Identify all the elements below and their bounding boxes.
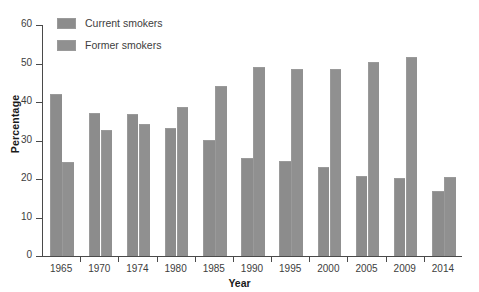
x-tick-label: 1990	[233, 263, 271, 274]
x-tick-label: 1985	[195, 263, 233, 274]
y-axis-title: Percentage	[9, 79, 21, 169]
bar	[330, 69, 342, 256]
bar	[253, 67, 265, 256]
bar	[356, 176, 368, 256]
bar-chart: Current smokers Former smokers 010203040…	[0, 0, 479, 292]
bar	[318, 167, 330, 256]
bar-group	[356, 25, 380, 256]
bar-group	[89, 25, 113, 256]
bar-group	[50, 25, 74, 256]
bar-group	[165, 25, 189, 256]
x-tick-label: 1980	[157, 263, 195, 274]
x-tick	[347, 257, 348, 262]
bar	[50, 94, 62, 256]
x-tick	[80, 257, 81, 262]
bar-group	[279, 25, 303, 256]
bar	[241, 158, 253, 256]
bar	[406, 57, 418, 256]
x-axis-title: Year	[0, 277, 479, 289]
bar	[215, 86, 227, 256]
bar-group	[394, 25, 418, 256]
bar	[62, 162, 74, 256]
y-tick-label: 0	[2, 250, 32, 260]
plot-area	[42, 25, 462, 256]
x-tick	[157, 257, 158, 262]
bar	[291, 69, 303, 256]
x-tick	[386, 257, 387, 262]
y-tick-label: 50	[2, 58, 32, 68]
bar	[279, 161, 291, 256]
bar	[177, 107, 189, 256]
bar	[139, 124, 151, 256]
bar	[127, 114, 139, 256]
x-tick	[309, 257, 310, 262]
x-tick	[118, 257, 119, 262]
bar	[444, 177, 456, 256]
x-tick-label: 1965	[42, 263, 80, 274]
x-tick-label: 1995	[271, 263, 309, 274]
bar-group	[318, 25, 342, 256]
y-tick-label: 20	[2, 173, 32, 183]
bar	[368, 62, 380, 256]
x-tick-label: 1970	[80, 263, 118, 274]
bar	[165, 128, 177, 256]
x-tick	[271, 257, 272, 262]
y-tick-label: 60	[2, 19, 32, 29]
bar-group	[203, 25, 227, 256]
x-tick-label: 2009	[386, 263, 424, 274]
x-tick-label: 2005	[347, 263, 385, 274]
bar-group	[127, 25, 151, 256]
bar	[203, 140, 215, 256]
bar-group	[432, 25, 456, 256]
bar	[101, 130, 113, 256]
x-tick-label: 1974	[118, 263, 156, 274]
bar	[89, 113, 101, 256]
x-tick	[424, 257, 425, 262]
x-tick-label: 2014	[424, 263, 462, 274]
y-tick-label: 10	[2, 212, 32, 222]
x-tick	[195, 257, 196, 262]
x-tick	[233, 257, 234, 262]
bar	[432, 191, 444, 256]
x-tick-label: 2000	[309, 263, 347, 274]
x-axis-line	[42, 256, 462, 257]
bar	[394, 178, 406, 256]
bar-group	[241, 25, 265, 256]
